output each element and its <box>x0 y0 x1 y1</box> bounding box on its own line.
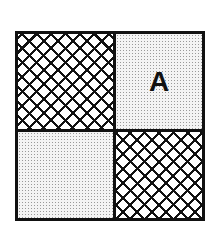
cell-bottom-left-dotted <box>18 132 113 218</box>
quadrant-grid: A <box>15 31 205 221</box>
cell-bottom-right-crosshatch <box>116 132 202 218</box>
cell-top-right-dotted: A <box>116 34 202 129</box>
cell-top-left-crosshatch <box>18 34 113 129</box>
cell-label-a: A <box>149 68 169 96</box>
